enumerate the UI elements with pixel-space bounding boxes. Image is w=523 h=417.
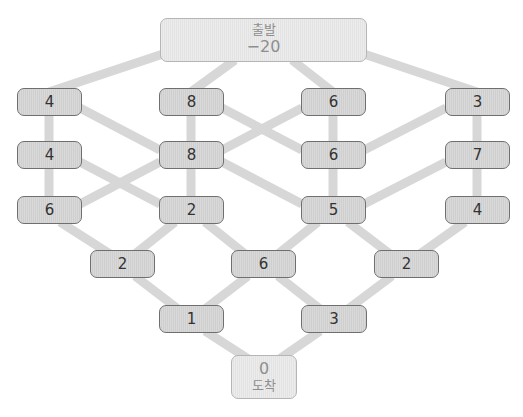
row5-node-1: 1: [159, 305, 224, 333]
end-node: 0 도착: [231, 355, 297, 399]
row1-node-4: 3: [445, 88, 510, 116]
end-value: 0: [259, 360, 269, 378]
row2-node-1: 4: [17, 141, 82, 169]
row4-node-3: 2: [374, 250, 439, 278]
row2-node-2: 8: [159, 141, 224, 169]
row3-node-4: 4: [445, 196, 510, 224]
row3-node-2: 2: [159, 196, 224, 224]
row2-node-4: 7: [445, 141, 510, 169]
row4-node-1: 2: [90, 250, 155, 278]
row1-node-3: 6: [301, 88, 366, 116]
path-puzzle-diagram: 출발 −20 4 8 6 3 4 8 6 7 6 2 5 4 2 6 2 1 3…: [0, 0, 523, 417]
row3-node-1: 6: [17, 196, 82, 224]
start-value: −20: [247, 38, 281, 56]
end-label: 도착: [252, 379, 276, 394]
start-label: 출발: [252, 23, 276, 38]
row1-node-1: 4: [17, 88, 82, 116]
row2-node-3: 6: [301, 141, 366, 169]
row5-node-2: 3: [301, 305, 367, 333]
start-node: 출발 −20: [160, 18, 367, 62]
row1-node-2: 8: [159, 88, 224, 116]
row4-node-2: 6: [231, 250, 296, 278]
row3-node-3: 5: [301, 196, 366, 224]
